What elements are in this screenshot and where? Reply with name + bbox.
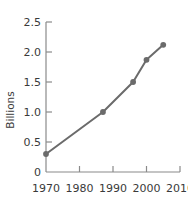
x-axis-ticks xyxy=(80,166,181,172)
x-tick-label: 1980 xyxy=(66,182,94,195)
line-chart: Billions 00.51.01.52.02.5 19701980199020… xyxy=(0,0,188,203)
data-point-marker xyxy=(130,79,136,85)
x-tick-label: 1990 xyxy=(99,182,127,195)
chart-canvas: Billions 00.51.01.52.02.5 19701980199020… xyxy=(0,0,188,203)
y-axis-title: Billions xyxy=(4,91,16,128)
data-point-markers xyxy=(43,42,166,157)
y-tick-label: 1.5 xyxy=(24,76,42,89)
x-axis-tick-labels: 19701980199020002010 xyxy=(32,182,188,195)
x-tick-label: 2010 xyxy=(166,182,188,195)
y-tick-label: 2.5 xyxy=(24,16,42,29)
y-tick-label: 1.0 xyxy=(24,106,42,119)
data-point-marker xyxy=(43,151,49,157)
x-tick-label: 2000 xyxy=(133,182,161,195)
y-tick-label: 2.0 xyxy=(24,46,42,59)
y-tick-label: 0.5 xyxy=(24,136,42,149)
y-tick-label: 0 xyxy=(34,166,41,179)
data-point-marker xyxy=(160,42,166,48)
y-axis-ticks xyxy=(46,22,52,142)
data-point-marker xyxy=(144,57,150,63)
data-point-marker xyxy=(100,109,106,115)
x-tick-label: 1970 xyxy=(32,182,60,195)
y-axis-tick-labels: 00.51.01.52.02.5 xyxy=(24,16,42,179)
